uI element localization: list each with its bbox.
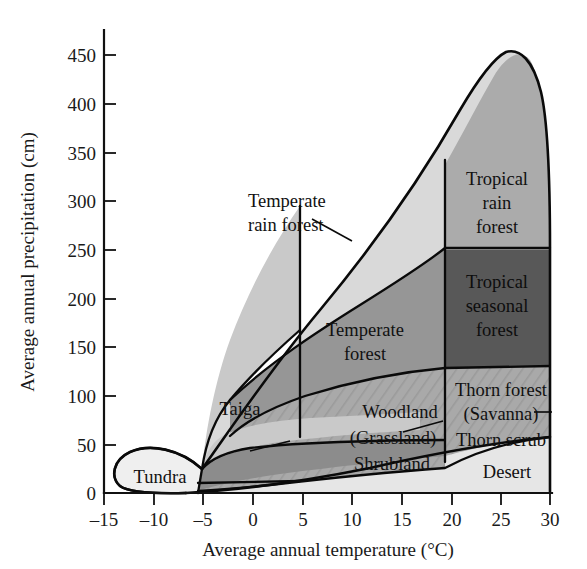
biome-label-thorn-forest: Thorn forest <box>455 380 548 400</box>
x-tick-label-0: 0 <box>248 509 258 530</box>
biome-label-thorn-scrub: Thorn scrub <box>456 430 546 450</box>
x-tick-labels: –15 –10 –5 0 5 10 15 20 25 30 <box>89 509 560 530</box>
biome-label-temperate-rain-forest-line1: Temperate <box>248 191 326 211</box>
biome-label-savanna: (Savanna) <box>464 404 539 425</box>
y-tick-label-450: 450 <box>68 45 97 66</box>
biome-label-tundra: Tundra <box>134 467 187 487</box>
y-tick-label-0: 0 <box>87 483 97 504</box>
biome-label-grassland: (Grassland) <box>350 428 436 449</box>
y-tick-label-400: 400 <box>68 94 97 115</box>
y-tick-label-50: 50 <box>77 435 96 456</box>
biome-label-temperate-rain-forest-line2: rain forest <box>248 215 324 235</box>
x-tick-label-30: 30 <box>541 509 560 530</box>
y-tick-label-200: 200 <box>68 289 97 310</box>
biome-label-tropical-rain-forest-line2: rain <box>483 193 512 213</box>
biome-label-tropical-seasonal-forest-line1: Tropical <box>466 272 528 292</box>
y-tick-label-350: 350 <box>68 143 97 164</box>
x-tick-label-5: 5 <box>298 509 308 530</box>
y-tick-label-150: 150 <box>68 337 97 358</box>
biome-label-desert: Desert <box>483 462 532 482</box>
x-tick-label-neg10: –10 <box>139 509 169 530</box>
biome-label-temperate-forest-line2: forest <box>344 344 387 364</box>
biome-label-taiga: Taiga <box>220 399 261 419</box>
biome-label-tropical-seasonal-forest-line2: seasonal <box>466 296 529 316</box>
y-axis-title: Average annual precipitation (cm) <box>17 132 39 392</box>
biome-label-tropical-seasonal-forest-line3: forest <box>476 320 519 340</box>
x-tick-label-10: 10 <box>343 509 362 530</box>
biome-label-shrubland: Shrubland <box>354 454 431 474</box>
y-tick-label-100: 100 <box>68 386 97 407</box>
x-axis-title: Average annual temperature (°C) <box>202 539 453 561</box>
y-tick-marks <box>104 55 116 493</box>
biome-diagram-figure: 450 400 350 300 250 200 150 100 50 0 –15… <box>0 0 587 569</box>
x-tick-label-15: 15 <box>393 509 412 530</box>
y-tick-label-250: 250 <box>68 240 97 261</box>
biome-label-temperate-forest-line1: Temperate <box>326 320 404 340</box>
y-tick-labels: 450 400 350 300 250 200 150 100 50 0 <box>68 45 97 504</box>
x-tick-label-25: 25 <box>492 509 511 530</box>
x-tick-label-neg5: –5 <box>193 509 213 530</box>
whittaker-biome-chart: 450 400 350 300 250 200 150 100 50 0 –15… <box>0 0 587 569</box>
x-tick-label-20: 20 <box>443 509 462 530</box>
y-tick-label-300: 300 <box>68 191 97 212</box>
biome-label-tropical-rain-forest-line1: Tropical <box>466 169 528 189</box>
x-tick-label-neg15: –15 <box>89 509 119 530</box>
biome-label-tropical-rain-forest-line3: forest <box>476 217 519 237</box>
x-tick-marks <box>104 493 550 505</box>
biome-label-woodland: Woodland <box>362 402 438 422</box>
